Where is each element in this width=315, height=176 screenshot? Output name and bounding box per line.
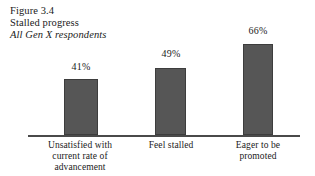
category-label: Unsatisfied with current rate of advance… — [26, 140, 134, 173]
category-label-line: promoted — [218, 151, 298, 162]
bar-unsatisfied-with-current-rate-of-advancement — [64, 79, 98, 135]
bar-eager-to-be-promoted — [243, 44, 273, 135]
x-axis-baseline — [28, 135, 300, 137]
category-label-line: Feel stalled — [131, 140, 211, 151]
bar-feel-stalled — [155, 68, 186, 135]
category-label-line: Eager to be — [218, 140, 298, 151]
category-label: Feel stalled — [131, 140, 211, 151]
category-label: Eager to be promoted — [218, 140, 298, 162]
category-label-line: Unsatisfied with — [26, 140, 134, 151]
bar-value-label: 66% — [228, 25, 288, 36]
bar-chart-plot-area: 41% 49% 66% Unsatisfied with current rat… — [0, 0, 315, 176]
bar-value-label: 49% — [141, 48, 201, 59]
bar-value-label: 41% — [51, 61, 111, 72]
category-label-line: advancement — [26, 162, 134, 173]
figure-container: Figure 3.4 Stalled progress All Gen X re… — [0, 0, 315, 176]
category-label-line: current rate of — [26, 151, 134, 162]
